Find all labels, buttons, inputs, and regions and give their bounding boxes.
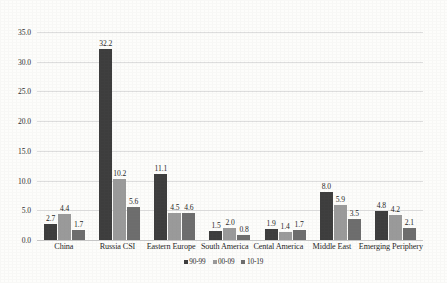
bar-value-label: 1.5 (211, 221, 220, 230)
bar-slot: 4.6 (182, 32, 195, 240)
bar-slot: 2.0 (223, 32, 236, 240)
bar[interactable] (279, 232, 292, 240)
bar-group: 4.84.22.1 (368, 32, 423, 240)
bar-value-label: 4.6 (184, 203, 193, 212)
y-tick-label: 30.0 (18, 57, 31, 66)
bar-group-bars: 1.52.00.8 (202, 32, 257, 240)
bar-slot: 4.4 (58, 32, 71, 240)
bar-value-label: 4.8 (377, 201, 386, 210)
bar-value-label: 5.9 (336, 195, 345, 204)
chart-legend: 90-9900-0910-19 (0, 258, 447, 266)
bar-group: 1.52.00.8 (202, 32, 257, 240)
x-axis-label-2: Russia CSI (91, 242, 145, 256)
bar[interactable] (209, 231, 222, 240)
y-tick-label: 10.0 (18, 176, 31, 185)
bar[interactable] (389, 215, 402, 240)
bar-slot: 2.7 (44, 32, 57, 240)
bar-value-label: 1.7 (74, 220, 83, 229)
bar-value-label: 2.7 (46, 214, 55, 223)
y-axis: 0.05.010.015.020.025.030.035.0 (0, 32, 34, 240)
bar[interactable] (265, 229, 278, 240)
bar-slot: 4.8 (375, 32, 388, 240)
bar-value-label: 3.5 (350, 209, 359, 218)
x-axis-label-5: Cental America (252, 242, 306, 256)
bar[interactable] (320, 192, 333, 240)
bar-slot: 4.2 (389, 32, 402, 240)
bar-slot: 1.9 (265, 32, 278, 240)
bar-group-bars: 1.91.41.7 (258, 32, 313, 240)
bar-slot: 0.8 (237, 32, 250, 240)
bar-value-label: 32.2 (99, 39, 112, 48)
bar-value-label: 4.5 (170, 203, 179, 212)
bar-slot: 4.5 (168, 32, 181, 240)
bar-slot: 5.9 (334, 32, 347, 240)
bar-value-label: 2.0 (225, 218, 234, 227)
bar-value-label: 1.4 (281, 222, 290, 231)
bar[interactable] (58, 214, 71, 240)
bar-group: 2.74.41.7 (37, 32, 92, 240)
bar-group-bars: 4.84.22.1 (368, 32, 423, 240)
y-tick-label: 20.0 (18, 117, 31, 126)
bar[interactable] (44, 224, 57, 240)
x-axis-label-6: Middle East (305, 242, 359, 256)
bar-group-bars: 11.14.54.6 (147, 32, 202, 240)
bar[interactable] (403, 228, 416, 240)
bar-value-label: 2.1 (405, 218, 414, 227)
legend-item-10-19[interactable]: 10-19 (241, 258, 263, 266)
bar[interactable] (113, 179, 126, 240)
bar-value-label: 1.9 (267, 219, 276, 228)
legend-item-00-09[interactable]: 00-09 (213, 258, 235, 266)
legend-label: 90-99 (189, 258, 205, 266)
bar-value-label: 5.6 (129, 197, 138, 206)
x-axis-label-7: Emerging Periphery (359, 242, 423, 256)
y-tick-label: 25.0 (18, 87, 31, 96)
bar[interactable] (237, 235, 250, 240)
bar-group: 1.91.41.7 (258, 32, 313, 240)
x-axis-label-3: Eastern Europe (144, 242, 198, 256)
bar-value-label: 4.4 (60, 204, 69, 213)
bar[interactable] (154, 174, 167, 240)
bar[interactable] (182, 213, 195, 240)
bar-slot: 1.5 (209, 32, 222, 240)
bar-slot: 1.7 (293, 32, 306, 240)
bar[interactable] (168, 213, 181, 240)
bar-group: 32.210.25.6 (92, 32, 147, 240)
bar-chart: 0.05.010.015.020.025.030.035.0 2.74.41.7… (0, 0, 447, 283)
bar-slot: 2.1 (403, 32, 416, 240)
bar-slot: 32.2 (99, 32, 112, 240)
bar-slot: 5.6 (127, 32, 140, 240)
bar[interactable] (375, 211, 388, 240)
bar-group-bars: 2.74.41.7 (37, 32, 92, 240)
legend-label: 00-09 (218, 258, 234, 266)
legend-item-90-99[interactable]: 90-99 (184, 258, 206, 266)
bar-slot: 1.4 (279, 32, 292, 240)
bar-slot: 8.0 (320, 32, 333, 240)
bar-group-bars: 8.05.93.5 (313, 32, 368, 240)
y-tick-label: 15.0 (18, 146, 31, 155)
bar[interactable] (293, 230, 306, 240)
plot-area: 2.74.41.732.210.25.611.14.54.61.52.00.81… (37, 32, 423, 240)
bar-slot: 10.2 (113, 32, 126, 240)
legend-swatch-icon (184, 260, 188, 264)
bar-value-label: 11.1 (155, 164, 168, 173)
bar-slot: 3.5 (348, 32, 361, 240)
bar[interactable] (223, 228, 236, 240)
legend-swatch-icon (213, 260, 217, 264)
bar-value-label: 1.7 (295, 220, 304, 229)
y-tick-label: 0.0 (22, 236, 31, 245)
legend-label: 10-19 (247, 258, 263, 266)
bar-value-label: 8.0 (322, 182, 331, 191)
bar[interactable] (99, 49, 112, 240)
y-tick-label: 5.0 (22, 206, 31, 215)
bar-groups: 2.74.41.732.210.25.611.14.54.61.52.00.81… (37, 32, 423, 240)
bar-group-bars: 32.210.25.6 (92, 32, 147, 240)
bar[interactable] (348, 219, 361, 240)
x-axis-label-4: South America (198, 242, 252, 256)
bar[interactable] (127, 207, 140, 240)
x-axis: ChinaRussia CSIEastern EuropeSouth Ameri… (37, 242, 423, 256)
bar-slot: 1.7 (72, 32, 85, 240)
bar[interactable] (334, 205, 347, 240)
bar-value-label: 10.2 (113, 169, 126, 178)
bar[interactable] (72, 230, 85, 240)
bar-slot: 11.1 (154, 32, 167, 240)
